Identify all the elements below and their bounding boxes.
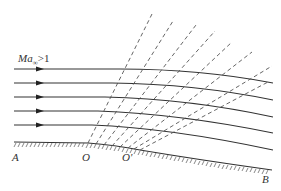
point-a-label: A <box>12 152 19 163</box>
point-b-label: B <box>262 174 269 185</box>
expansion-fan-diagram <box>0 0 281 191</box>
mach-wave-5 <box>120 42 232 147</box>
streamlines <box>14 69 273 150</box>
streamline-4 <box>14 111 273 133</box>
freestream-mach-label: Ma∞>1 <box>18 53 49 67</box>
streamline-1 <box>14 69 273 83</box>
streamline-5 <box>14 125 273 150</box>
arrow-icon <box>36 67 44 72</box>
flow-arrows <box>36 67 44 128</box>
wall <box>14 142 272 174</box>
arrow-icon <box>36 95 44 100</box>
mach-wave-8 <box>140 82 268 150</box>
arrow-icon <box>36 81 44 86</box>
point-o-prime-label: O' <box>122 152 132 163</box>
arrow-icon <box>36 109 44 114</box>
point-o-label: O <box>82 152 90 163</box>
arrow-icon <box>36 123 44 128</box>
mach-wave-1 <box>88 14 152 143</box>
mach-wave-3 <box>104 25 196 145</box>
mach-waves <box>88 14 272 150</box>
